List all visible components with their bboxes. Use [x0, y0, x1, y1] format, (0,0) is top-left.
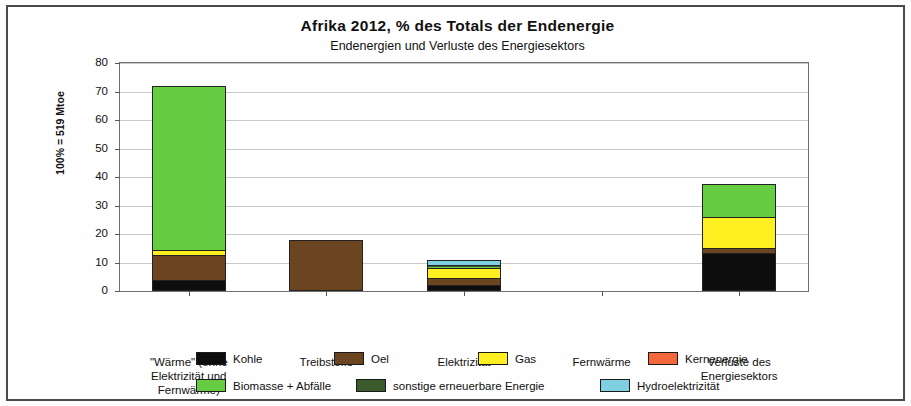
bar-stack[interactable] — [565, 63, 639, 291]
legend-item[interactable]: Gas — [478, 352, 536, 365]
x-axis-tick — [739, 291, 740, 296]
legend-swatch — [334, 352, 364, 365]
y-axis-tick — [115, 120, 120, 121]
y-axis-tick — [115, 234, 120, 235]
chart-title: Afrika 2012, % des Totals der Endenergie — [8, 17, 907, 35]
bar-segment-oel[interactable] — [289, 240, 363, 291]
legend-item[interactable]: Biomasse + Abfälle — [196, 379, 331, 392]
bar-segment-kohle[interactable] — [427, 285, 501, 291]
y-axis-tick — [115, 149, 120, 150]
legend-label: Hydroelektrizität — [637, 380, 719, 392]
y-axis-tick-label: 10 — [68, 257, 108, 269]
bar-segment-oel[interactable] — [427, 278, 501, 285]
bar-segment-kohle[interactable] — [702, 253, 776, 291]
legend-swatch — [648, 352, 678, 365]
bar-segment-gas[interactable] — [152, 250, 226, 256]
x-axis-tick — [326, 291, 327, 296]
legend-swatch — [600, 379, 630, 392]
legend-label: Oel — [371, 353, 389, 365]
figure-frame: Afrika 2012, % des Totals der Endenergie… — [6, 5, 905, 401]
legend-item[interactable]: Kohle — [196, 352, 262, 365]
y-axis-tick — [115, 63, 120, 64]
legend-label: sonstige erneuerbare Energie — [393, 380, 545, 392]
bar-segment-oel[interactable] — [152, 255, 226, 279]
legend-item[interactable]: Oel — [334, 352, 389, 365]
bar-segment-hydroelektrizit-t[interactable] — [427, 260, 501, 265]
bar-stack[interactable] — [289, 63, 363, 291]
legend-item[interactable]: sonstige erneuerbare Energie — [356, 379, 545, 392]
y-axis-tick-label: 40 — [68, 171, 108, 183]
legend-label: Gas — [515, 353, 536, 365]
plot-area: 01020304050607080"Wärme" (ohneElektrizit… — [119, 62, 809, 292]
y-axis-tick-label: 70 — [68, 86, 108, 98]
legend-item[interactable]: Kernenergie — [648, 352, 748, 365]
legend-item[interactable]: Hydroelektrizität — [600, 379, 719, 392]
bar-segment-gas[interactable] — [702, 217, 776, 248]
legend-swatch — [356, 379, 386, 392]
legend-swatch — [196, 379, 226, 392]
y-axis-tick-label: 50 — [68, 143, 108, 155]
x-axis-tick — [602, 291, 603, 296]
bar-segment-biomasse-abf-lle[interactable] — [152, 86, 226, 250]
y-axis-tick-label: 60 — [68, 114, 108, 126]
y-axis-tick — [115, 206, 120, 207]
y-axis-tick — [115, 92, 120, 93]
y-axis-tick — [115, 263, 120, 264]
chart-page: Afrika 2012, % des Totals der Endenergie… — [0, 0, 911, 406]
x-axis-tick — [189, 291, 190, 296]
y-axis-tick-label: 0 — [68, 285, 108, 297]
bar-stack[interactable] — [427, 63, 501, 291]
y-axis-tick-label: 30 — [68, 200, 108, 212]
bar-stack[interactable] — [152, 63, 226, 291]
y-axis-tick-label: 80 — [68, 57, 108, 69]
bar-segment-kohle[interactable] — [152, 280, 226, 291]
legend-label: Biomasse + Abfälle — [233, 380, 331, 392]
y-axis-tick — [115, 291, 120, 292]
legend-swatch — [196, 352, 226, 365]
bar-segment-sonstige-erneuerbare-energie[interactable] — [427, 265, 501, 267]
legend-label: Kohle — [233, 353, 262, 365]
y-axis-label: 100% = 519 Mtoe — [54, 73, 66, 193]
y-axis-tick-label: 20 — [68, 228, 108, 240]
bar-segment-oel[interactable] — [702, 248, 776, 254]
x-axis-tick — [464, 291, 465, 296]
y-axis-tick — [115, 177, 120, 178]
legend-label: Kernenergie — [685, 353, 748, 365]
legend-swatch — [478, 352, 508, 365]
bar-segment-biomasse-abf-lle[interactable] — [702, 184, 776, 217]
chart-subtitle: Endenergien und Verluste des Energiesekt… — [8, 39, 907, 53]
bar-stack[interactable] — [702, 63, 776, 291]
bar-segment-gas[interactable] — [427, 268, 501, 278]
